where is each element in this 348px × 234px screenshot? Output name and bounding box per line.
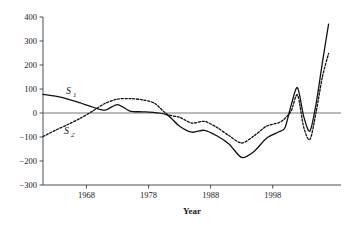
- series-annotation-s2: S 2: [64, 125, 75, 139]
- series-label-s2: S: [64, 125, 69, 136]
- y-tick-label: 100: [24, 84, 37, 94]
- x-axis: 1968197819881998: [43, 185, 341, 200]
- x-axis-ticks: 1968197819881998: [78, 185, 281, 200]
- x-axis-title: Year: [183, 206, 201, 216]
- chart-container: 4003002001000−100−200−300 19681978198819…: [0, 0, 348, 234]
- x-tick-label: 1978: [140, 190, 157, 200]
- y-tick-label: 0: [33, 108, 37, 118]
- x-tick-label: 1968: [78, 190, 95, 200]
- y-axis-ticks: 4003002001000−100−200−300: [19, 12, 43, 190]
- y-tick-label: −100: [19, 132, 37, 142]
- y-tick-label: 200: [24, 60, 37, 70]
- y-tick-label: 400: [24, 12, 37, 22]
- series-label-s2-subscript: 2: [71, 131, 75, 139]
- y-axis: 4003002001000−100−200−300: [19, 12, 43, 190]
- y-tick-label: −300: [19, 180, 37, 190]
- x-tick-label: 1998: [264, 190, 281, 200]
- series-label-s1-subscript: 1: [73, 91, 77, 99]
- series-annotation-s1: S 1: [66, 85, 77, 99]
- line-chart: 4003002001000−100−200−300 19681978198819…: [0, 0, 348, 234]
- y-tick-label: −200: [19, 156, 37, 166]
- series-label-s1: S: [66, 85, 71, 96]
- series-line-s1: [43, 24, 329, 157]
- y-tick-label: 300: [24, 36, 37, 46]
- x-tick-label: 1988: [202, 190, 219, 200]
